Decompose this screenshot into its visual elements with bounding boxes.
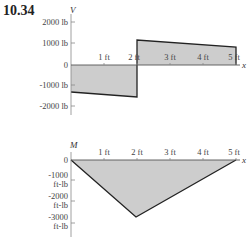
v-tick-label: -1000 lb: [39, 80, 68, 90]
moment-region: [71, 160, 236, 217]
v-tick-label: 1000 lb: [42, 38, 68, 48]
moment-diagram: M x 0 -1000 ft-lb -2000 ft-lb -3000 ft-l…: [48, 140, 246, 237]
m-tick-label: 0: [64, 155, 68, 165]
x-tick-label: 2 ft: [128, 52, 140, 62]
x-tick-label: 3 ft: [164, 147, 176, 157]
shear-x-axis-label: x: [241, 60, 246, 70]
m-tick-unit: ft-lb: [53, 200, 68, 210]
v-tick-label: 2000 lb: [42, 17, 68, 27]
x-tick-label: 5 ft: [228, 52, 240, 62]
x-tick-label: 1 ft: [98, 147, 110, 157]
v-tick-label: 0: [64, 60, 68, 70]
v-tick-label: -2000 lb: [39, 101, 68, 111]
v-axis-label: V: [70, 5, 77, 15]
x-tick-label: 4 ft: [197, 147, 209, 157]
x-tick-label: 3 ft: [164, 52, 176, 62]
x-tick-label: 2 ft: [131, 147, 143, 157]
x-tick-label: 5 ft: [228, 147, 240, 157]
moment-x-axis-label: x: [241, 155, 246, 165]
shear-moment-diagrams: V x 2000 lb 1000 lb 0 -1000 lb -2000 lb …: [0, 0, 252, 244]
m-tick-unit: ft-lb: [53, 221, 68, 231]
x-tick-label: 1 ft: [98, 52, 110, 62]
m-tick-unit: ft-lb: [53, 179, 68, 189]
shear-diagram: V x 2000 lb 1000 lb 0 -1000 lb -2000 lb …: [39, 5, 246, 115]
x-tick-label: 4 ft: [197, 52, 209, 62]
m-axis-label: M: [69, 140, 78, 150]
